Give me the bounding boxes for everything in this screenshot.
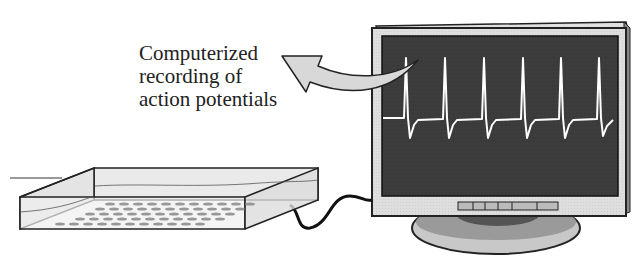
figure-illustration xyxy=(0,0,637,264)
mea-dish xyxy=(10,168,318,229)
monitor-buttons xyxy=(458,202,558,210)
